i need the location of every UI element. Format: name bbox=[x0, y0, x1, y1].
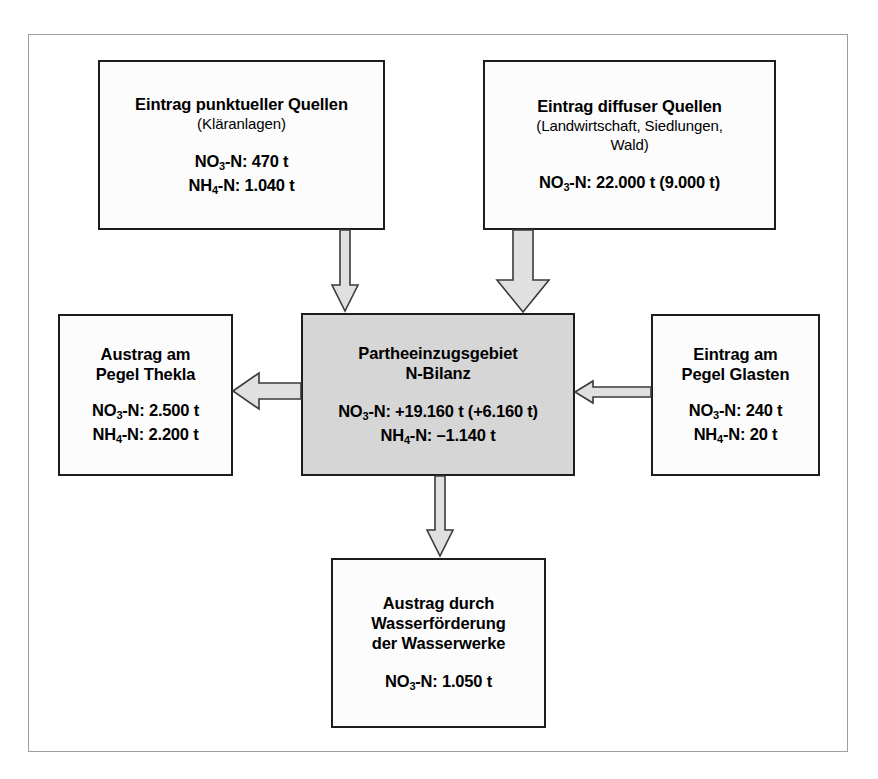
waterworks-title-line1: Austrag durch bbox=[383, 593, 494, 613]
diffuse-sources-values: NO3-N: 22.000 t (9.000 t) bbox=[539, 170, 720, 194]
point-sources-subtitle: (Kläranlagen) bbox=[197, 114, 286, 133]
thekla-value-1: NH4-N: 2.200 t bbox=[92, 422, 199, 446]
balance-value-1: NH4-N: –1.140 t bbox=[338, 423, 538, 447]
balance-values: NO3-N: +19.160 t (+6.160 t) NH4-N: –1.14… bbox=[338, 399, 538, 447]
waterworks-title-line2: Wasserförderung bbox=[371, 613, 506, 633]
arrow-diffuse-sources-to-balance bbox=[495, 230, 551, 314]
diffuse-sources-subtitle-line1: (Landwirtschaft, Siedlungen, bbox=[536, 116, 722, 135]
node-outflow-thekla: Austrag am Pegel Thekla NO3-N: 2.500 t N… bbox=[58, 314, 233, 476]
arrow-balance-to-waterworks bbox=[425, 476, 455, 559]
waterworks-value-0: NO3-N: 1.050 t bbox=[385, 669, 492, 693]
diagram-canvas: Eintrag punktueller Quellen (Kläranlagen… bbox=[0, 0, 878, 779]
thekla-value-0: NO3-N: 2.500 t bbox=[92, 398, 199, 422]
balance-title-line2: N-Bilanz bbox=[405, 363, 470, 383]
node-diffuse-sources: Eintrag diffuser Quellen (Landwirtschaft… bbox=[483, 60, 776, 230]
point-sources-values: NO3-N: 470 t NH4-N: 1.040 t bbox=[188, 149, 294, 197]
diffuse-sources-subtitle-line2: Wald) bbox=[610, 135, 648, 154]
node-inflow-glasten: Eintrag am Pegel Glasten NO3-N: 240 t NH… bbox=[651, 314, 820, 476]
glasten-values: NO3-N: 240 t NH4-N: 20 t bbox=[689, 398, 783, 446]
thekla-title-line2: Pegel Thekla bbox=[96, 364, 196, 384]
arrow-point-sources-to-balance bbox=[330, 230, 360, 314]
node-balance: Partheeinzugsgebiet N-Bilanz NO3-N: +19.… bbox=[301, 313, 575, 476]
thekla-values: NO3-N: 2.500 t NH4-N: 2.200 t bbox=[92, 398, 199, 446]
balance-title-line1: Partheeinzugsgebiet bbox=[358, 343, 517, 363]
waterworks-values: NO3-N: 1.050 t bbox=[385, 669, 492, 693]
waterworks-title-line3: der Wasserwerke bbox=[372, 633, 506, 653]
glasten-value-1: NH4-N: 20 t bbox=[689, 422, 783, 446]
node-point-sources: Eintrag punktueller Quellen (Kläranlagen… bbox=[98, 60, 385, 230]
point-sources-title: Eintrag punktueller Quellen bbox=[135, 94, 348, 114]
point-sources-value-0: NO3-N: 470 t bbox=[188, 149, 294, 173]
glasten-title-line1: Eintrag am bbox=[693, 344, 777, 364]
balance-value-0: NO3-N: +19.160 t (+6.160 t) bbox=[338, 399, 538, 423]
arrow-balance-to-thekla bbox=[233, 368, 302, 414]
glasten-value-0: NO3-N: 240 t bbox=[689, 398, 783, 422]
glasten-title-line2: Pegel Glasten bbox=[682, 364, 790, 384]
arrow-glasten-to-balance bbox=[575, 378, 652, 406]
point-sources-value-1: NH4-N: 1.040 t bbox=[188, 173, 294, 197]
node-waterworks: Austrag durch Wasserförderung der Wasser… bbox=[331, 558, 546, 728]
thekla-title-line1: Austrag am bbox=[101, 344, 191, 364]
diffuse-sources-value-0: NO3-N: 22.000 t (9.000 t) bbox=[539, 170, 720, 194]
diffuse-sources-title: Eintrag diffuser Quellen bbox=[537, 96, 722, 116]
